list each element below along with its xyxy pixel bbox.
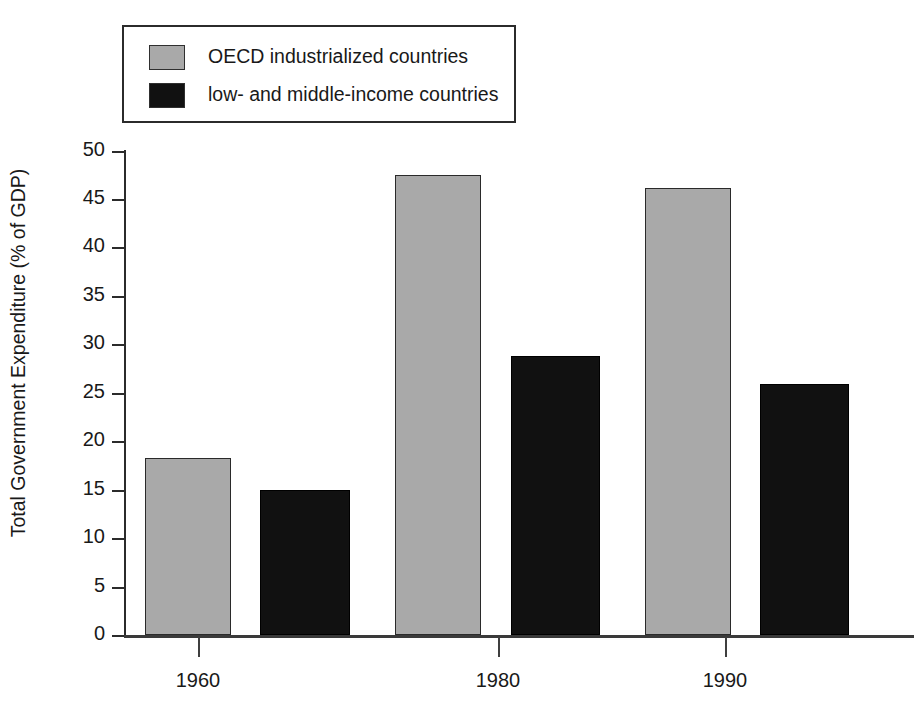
x-tick-label-1980: 1980 xyxy=(438,670,558,690)
chart-legend: OECD industrialized countries low- and m… xyxy=(122,25,516,123)
y-tick-label-20: 20 xyxy=(65,429,105,449)
y-tick-label-5: 5 xyxy=(65,575,105,595)
y-tick-label-30: 30 xyxy=(65,332,105,352)
y-tick-label-0: 0 xyxy=(65,623,105,643)
plot-area: 50 45 40 35 30 25 20 15 10 5 0 xyxy=(124,150,914,637)
y-tick-10: 10 xyxy=(112,538,124,540)
bar-low-middle-income-1980 xyxy=(511,356,600,635)
y-tick-20: 20 xyxy=(112,441,124,443)
y-tick-label-10: 10 xyxy=(65,526,105,546)
x-tick-label-1960: 1960 xyxy=(138,670,258,690)
y-tick-5: 5 xyxy=(112,587,124,589)
y-tick-15: 15 xyxy=(112,490,124,492)
y-tick-label-50: 50 xyxy=(65,139,105,159)
legend-item-oecd: OECD industrialized countries xyxy=(149,38,514,76)
legend-label-oecd: OECD industrialized countries xyxy=(208,47,468,67)
x-tick-1990 xyxy=(725,637,727,657)
y-tick-30: 30 xyxy=(112,344,124,346)
x-tick-label-1990: 1990 xyxy=(665,670,785,690)
y-tick-35: 35 xyxy=(112,296,124,298)
y-tick-label-40: 40 xyxy=(65,235,105,255)
legend-label-low-middle-income: low- and middle-income countries xyxy=(208,85,498,105)
y-tick-label-45: 45 xyxy=(65,187,105,207)
legend-item-low-middle-income: low- and middle-income countries xyxy=(149,76,514,114)
bar-oecd-1980 xyxy=(395,175,481,635)
bar-oecd-1990 xyxy=(645,188,731,635)
y-tick-50: 50 xyxy=(112,151,124,153)
x-tick-1960 xyxy=(198,637,200,657)
y-tick-45: 45 xyxy=(112,199,124,201)
y-tick-40: 40 xyxy=(112,247,124,249)
bar-chart-figure: OECD industrialized countries low- and m… xyxy=(0,0,915,706)
y-tick-0: 0 xyxy=(112,635,124,637)
x-tick-1980 xyxy=(498,637,500,657)
y-axis-line xyxy=(124,150,126,637)
bar-low-middle-income-1960 xyxy=(260,490,350,635)
y-tick-label-35: 35 xyxy=(65,284,105,304)
y-axis-title: Total Government Expenditure (% of GDP) xyxy=(0,0,36,706)
legend-swatch-low-middle-income xyxy=(149,83,185,108)
y-tick-label-15: 15 xyxy=(65,478,105,498)
bar-oecd-1960 xyxy=(145,458,231,635)
bar-low-middle-income-1990 xyxy=(760,384,849,635)
x-axis-line xyxy=(124,635,914,638)
y-tick-25: 25 xyxy=(112,393,124,395)
legend-swatch-oecd xyxy=(149,45,185,70)
y-tick-label-25: 25 xyxy=(65,381,105,401)
